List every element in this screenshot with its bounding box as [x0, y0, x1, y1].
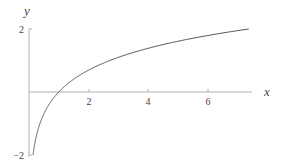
log-function-plot: 2 4 6 2 −2 x y [0, 0, 284, 163]
x-tick-label-4: 4 [146, 96, 151, 107]
x-tick-label-2: 2 [87, 96, 92, 107]
y-axis-label: y [22, 3, 30, 18]
x-tick-label-6: 6 [206, 96, 211, 107]
y-tick-label-2: 2 [19, 24, 24, 35]
x-axis-label: x [263, 84, 270, 99]
y-tick-label-neg2: −2 [13, 150, 24, 161]
